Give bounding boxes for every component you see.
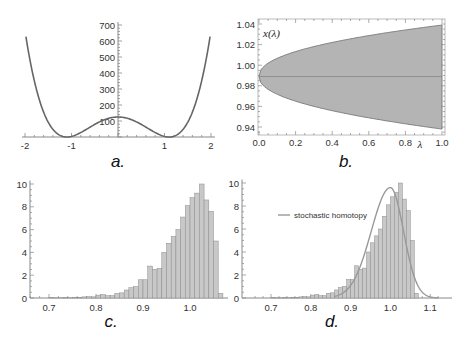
y-tick-label: 300 [99, 84, 115, 95]
histogram-bar [148, 266, 153, 298]
y-tick-label: 2 [22, 270, 27, 281]
x-tick-label: 1.0 [183, 302, 196, 313]
histogram-bar [271, 297, 275, 298]
y-tick-label: 1.04 [237, 19, 256, 30]
histogram-bar [73, 297, 78, 298]
y-tick-label: 0.94 [237, 122, 256, 133]
histogram-bar [398, 183, 402, 298]
histogram-bar [152, 270, 157, 299]
histogram-bar [101, 295, 106, 298]
confidence-band [259, 25, 442, 129]
x-tick-label: 1.0 [384, 302, 397, 313]
histogram-bar [105, 296, 110, 298]
x-tick-label: 0.8 [399, 137, 412, 148]
histogram-bar [124, 290, 129, 298]
histogram-bar [371, 243, 375, 298]
histogram-bar [49, 297, 54, 298]
histogram-bar [291, 297, 295, 298]
y-tick-label: 500 [99, 52, 115, 63]
x-tick-label: 0.0 [252, 137, 265, 148]
y-tick-label: 2 [234, 270, 239, 281]
histogram-bar [390, 197, 394, 298]
panel-c: 0.70.80.91.00246810c. [16, 179, 228, 332]
y-tick-label: 0 [22, 293, 27, 304]
y-tick-label: 200 [99, 100, 115, 111]
y-tick-label: 0 [234, 293, 239, 304]
x-tick-label: -2 [21, 140, 29, 151]
histogram-bar [323, 296, 327, 298]
histogram-bar [162, 252, 167, 298]
histogram-bar [190, 198, 195, 298]
histogram-bar [82, 297, 87, 298]
histogram-bar [138, 280, 143, 298]
panel-b: 0.00.20.40.60.81.00.940.960.981.001.021.… [237, 19, 449, 172]
histogram-bar [143, 280, 148, 298]
histogram-bar [359, 269, 363, 298]
y-tick-label: 600 [99, 36, 115, 47]
histogram-bar [218, 293, 223, 298]
histogram-bar [185, 206, 190, 298]
x-axis-label: λ [417, 138, 423, 150]
histogram-bar [386, 205, 390, 298]
histogram-bar [299, 297, 303, 298]
histogram-bar [181, 217, 186, 298]
histogram-bar [87, 297, 92, 298]
histogram-bar [96, 295, 101, 298]
histogram-bar [214, 241, 219, 298]
y-tick-label: 700 [99, 20, 115, 31]
histogram-bar [91, 297, 96, 298]
x-tick-label: 0.7 [264, 302, 277, 313]
histogram-bar [378, 229, 382, 298]
histogram-bar [167, 243, 172, 298]
histogram-bar [311, 295, 315, 298]
histogram-bar [382, 216, 386, 298]
x-tick-label: 1 [162, 140, 167, 151]
panel-label-a: a. [111, 152, 125, 171]
y-tick-label: 6 [234, 224, 239, 235]
histogram-bar [307, 297, 311, 298]
histogram-bar [176, 230, 181, 298]
histogram-bar [303, 297, 307, 298]
y-tick-label: 1.00 [237, 60, 256, 71]
y-tick-label: 0.96 [237, 101, 256, 112]
histogram-bar [129, 288, 134, 298]
histogram-bar [204, 200, 209, 298]
histogram-bar [195, 193, 200, 298]
y-tick-label: 8 [234, 201, 239, 212]
histogram-bar [414, 293, 418, 298]
y-tick-label: 0.98 [237, 80, 256, 91]
x-tick-label: 0.7 [42, 302, 55, 313]
histogram-bar [199, 184, 204, 298]
x-tick-label: -1 [67, 140, 75, 151]
panel-label-b: b. [339, 152, 353, 171]
panel-d: 0.70.80.91.01.10246810d.stochastic homot… [228, 178, 452, 332]
histogram-bar [209, 211, 214, 298]
histogram-bar [115, 293, 120, 298]
y-tick-label: 10 [228, 178, 239, 189]
histogram-bar [157, 268, 162, 298]
x-tick-label: 0.9 [136, 302, 149, 313]
x-tick-label: 0.8 [89, 302, 102, 313]
panel-label-d: d. [325, 312, 339, 331]
x-tick-label: 0.4 [326, 137, 339, 148]
histogram-bar [367, 252, 371, 298]
x-tick-label: 0.9 [344, 302, 357, 313]
y-axis-label: x(λ) [262, 27, 280, 40]
panel-a: -2-112100200300400500600700a. [21, 20, 215, 172]
legend-label: stochastic homotopy [294, 211, 367, 220]
y-tick-label: 10 [16, 179, 27, 190]
panel-label-c: c. [104, 312, 117, 331]
histogram-bar [394, 192, 398, 298]
histogram-bar [331, 293, 335, 298]
histogram-bar [319, 296, 323, 298]
histogram-bar [374, 236, 378, 298]
histogram-bar [315, 295, 319, 298]
histogram-bar [402, 199, 406, 298]
x-tick-label: 1.0 [435, 137, 448, 148]
histogram-bar [327, 293, 331, 298]
y-tick-label: 4 [234, 247, 239, 258]
x-tick-label: 0.2 [289, 137, 302, 148]
y-tick-label: 4 [22, 247, 27, 258]
histogram-bar [363, 268, 367, 298]
x-tick-label: 2 [208, 140, 213, 151]
